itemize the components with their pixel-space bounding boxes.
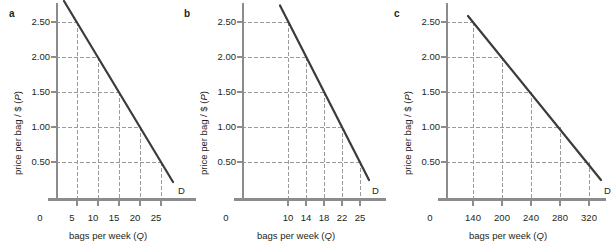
x-tick-label-a-2: 15 [105,213,123,223]
x-tick-label-b-0: 10 [279,213,297,223]
y-tick-label-c-2: 1.50 [408,87,440,97]
y-tick-label-a-4: 0.50 [18,157,50,167]
x-tick-label-c-3: 280 [546,213,574,223]
panel-letter-c: c [394,9,400,19]
y-tick-label-a-3: 1.00 [18,122,50,132]
x-tick-label-a-0: 5 [63,213,81,223]
x-axis-label-b: bags per week (Q) [224,230,368,241]
panel-letter-b: b [184,9,190,19]
plot-area-c [446,6,606,206]
y-tick-label-a-0: 2.50 [18,17,50,27]
x-tick-label-b-2: 18 [315,213,333,223]
demand-label-b: D [372,186,379,196]
x-tick-label-a-1: 10 [84,213,102,223]
y-tick-label-c-3: 1.00 [408,122,440,132]
x-tick-label-c-4: 320 [575,213,603,223]
y-tick-label-a-1: 2.00 [18,52,50,62]
y-tick-label-c-4: 0.50 [408,157,440,167]
x-tick-label-b-1: 14 [297,213,315,223]
panel-letter-a: a [9,9,15,19]
x-origin-label-b: 0 [219,213,233,223]
demand-label-c: D [604,186,611,196]
x-tick-label-b-3: 22 [333,213,351,223]
x-tick-label-a-3: 20 [126,213,144,223]
x-tick-label-c-0: 140 [459,213,487,223]
y-tick-label-c-1: 2.00 [408,52,440,62]
y-tick-label-b-1: 2.00 [204,52,236,62]
y-tick-label-b-3: 1.00 [204,122,236,132]
y-tick-label-c-0: 2.50 [408,17,440,27]
panel-c: c price per bag / $ (P) 2.50 2.00 1.50 1… [390,0,612,249]
y-tick-label-b-0: 2.50 [204,17,236,27]
panel-b: b price per bag / $ (P) 2.50 2.00 1.50 1… [180,0,390,249]
y-tick-label-a-2: 1.50 [18,87,50,97]
x-tick-label-c-1: 200 [488,213,516,223]
x-axis-label-c: bags per week (Q) [428,230,588,241]
demand-curve-c [468,16,601,180]
x-origin-label-c: 0 [423,213,437,223]
demand-curve-figure: a price per bag / $ (P) 2.50 2.00 1.50 1… [0,0,612,249]
plot-area-a [56,6,196,206]
x-tick-label-c-2: 240 [517,213,545,223]
panel-a: a price per bag / $ (P) 2.50 2.00 1.50 1… [0,0,204,249]
plot-area-b [242,6,386,206]
x-axis-label-a: bags per week (Q) [38,230,178,241]
y-tick-label-b-2: 1.50 [204,87,236,97]
y-tick-label-b-4: 0.50 [204,157,236,167]
x-origin-label-a: 0 [33,213,47,223]
x-tick-label-a-4: 25 [147,213,165,223]
x-tick-label-b-4: 25 [351,213,369,223]
